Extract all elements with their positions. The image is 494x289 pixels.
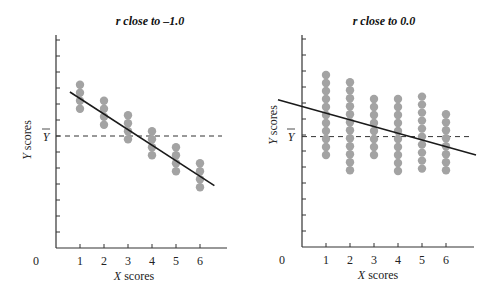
data-point: [172, 143, 180, 151]
data-point: [148, 127, 156, 135]
data-point: [394, 143, 402, 151]
data-point: [394, 103, 402, 111]
data-point: [172, 167, 180, 175]
data-point: [322, 151, 330, 159]
y-mean-label: Y: [288, 130, 296, 144]
x-tick-label: 6: [197, 254, 203, 268]
y-axis-label: Y scores: [20, 120, 34, 160]
data-point: [346, 126, 354, 134]
chart-canvas: r close to –1.0 0 123456 X scores Y scor…: [0, 0, 494, 289]
data-point: [322, 95, 330, 103]
x-tick-label: 2: [347, 253, 353, 267]
y-mean-label: Y: [43, 130, 51, 144]
data-point: [322, 79, 330, 87]
data-point: [394, 151, 402, 159]
x-tick-labels: 123456: [77, 254, 203, 268]
data-point: [370, 103, 378, 111]
origin-label: 0: [33, 254, 39, 268]
chart-left-negative-correlation: r close to –1.0 0 123456 X scores Y scor…: [20, 14, 227, 283]
x-tick-label: 5: [419, 253, 425, 267]
data-point: [322, 103, 330, 111]
x-tick-label: 3: [125, 254, 131, 268]
data-point: [370, 143, 378, 151]
data-point: [100, 121, 108, 129]
data-point: [370, 95, 378, 103]
data-point: [346, 166, 354, 174]
y-axis-label: Y scores: [266, 105, 280, 145]
data-point: [346, 142, 354, 150]
data-point: [442, 110, 450, 118]
data-point: [346, 150, 354, 158]
data-point: [196, 183, 204, 191]
data-point: [322, 71, 330, 79]
data-point: [442, 134, 450, 142]
data-point: [442, 158, 450, 166]
x-tick-label: 6: [443, 253, 449, 267]
data-point: [322, 87, 330, 95]
chart-title: r close to 0.0: [353, 14, 416, 28]
data-point: [418, 108, 426, 116]
data-point: [346, 102, 354, 110]
data-point: [148, 151, 156, 159]
data-point: [418, 100, 426, 108]
x-tick-labels: 123456: [323, 253, 449, 267]
x-tick-label: 1: [323, 253, 329, 267]
x-tick-label: 5: [173, 254, 179, 268]
x-tick-label: 4: [149, 254, 155, 268]
data-point: [322, 143, 330, 151]
data-point: [124, 135, 132, 143]
data-point: [370, 111, 378, 119]
data-point: [124, 111, 132, 119]
data-point: [394, 167, 402, 175]
x-axis-label: X scores: [357, 268, 399, 282]
data-point: [346, 86, 354, 94]
data-point: [394, 135, 402, 143]
data-point: [196, 159, 204, 167]
data-point: [442, 166, 450, 174]
data-point: [100, 97, 108, 105]
data-point: [370, 151, 378, 159]
x-tick-label: 2: [101, 254, 107, 268]
data-point: [442, 118, 450, 126]
data-point: [346, 134, 354, 142]
data-point: [346, 78, 354, 86]
x-tick-label: 3: [371, 253, 377, 267]
data-point: [322, 119, 330, 127]
data-point: [76, 81, 84, 89]
data-point: [418, 124, 426, 132]
data-point: [322, 135, 330, 143]
origin-label: 0: [279, 253, 285, 267]
chart-right-no-correlation: r close to 0.0 0 123456 X scores Y score…: [266, 14, 476, 282]
x-tick-label: 1: [77, 254, 83, 268]
data-point: [394, 95, 402, 103]
data-point: [148, 135, 156, 143]
data-point: [370, 135, 378, 143]
data-point: [418, 92, 426, 100]
data-point: [418, 140, 426, 148]
data-point: [418, 116, 426, 124]
data-point: [322, 127, 330, 135]
regression-line: [70, 92, 214, 186]
data-point: [442, 126, 450, 134]
data-point: [442, 150, 450, 158]
regression-line: [70, 92, 214, 186]
data-point: [394, 159, 402, 167]
data-point: [418, 164, 426, 172]
x-tick-label: 4: [395, 253, 401, 267]
data-point: [76, 105, 84, 113]
data-point: [394, 111, 402, 119]
data-point: [124, 119, 132, 127]
data-point: [418, 148, 426, 156]
data-point: [394, 119, 402, 127]
data-points: [322, 71, 450, 175]
data-point: [346, 158, 354, 166]
data-point: [346, 94, 354, 102]
axes: [56, 35, 227, 248]
x-axis-label: X scores: [113, 269, 155, 283]
chart-title: r close to –1.0: [116, 14, 185, 28]
data-point: [418, 156, 426, 164]
data-point: [346, 110, 354, 118]
